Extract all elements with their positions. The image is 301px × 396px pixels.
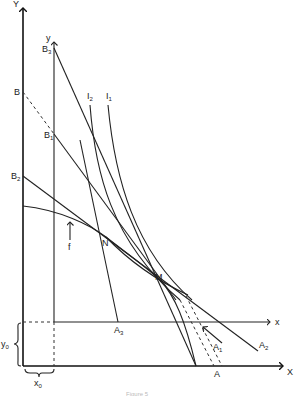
indifference-curve-i2 [90,105,180,300]
label-i1: I1 [106,91,113,102]
label-b2: B2 [11,171,21,182]
label-i2: I2 [87,91,94,102]
line-b3-a [54,48,196,366]
label-m: M [155,272,163,282]
label-f: f [68,242,71,252]
brace-y0 [14,323,21,366]
line-b-b1-dashed [23,92,54,134]
label-b: B [14,87,20,97]
label-a3: A3 [114,325,124,336]
label-a2: A2 [259,340,269,351]
label-y0: y0 [1,339,10,350]
production-possibility-diagram: Y X y x B B1 B2 B3 A A1 A2 A3 N M I2 I1 … [0,0,301,396]
label-a1: A1 [213,342,223,353]
brace-x0 [25,369,54,377]
line-dashed-to-a [180,300,214,366]
label-a: A [214,369,220,379]
label-x0: x0 [34,378,43,389]
outer-y-axis-label: Y [13,0,19,9]
inner-y-axis-label: y [46,33,51,43]
label-n: N [102,238,109,248]
inner-x-axis-label: x [275,317,280,327]
figure-caption: Figure 5 [126,391,149,396]
outer-x-axis-label: X [287,367,293,377]
label-b3: B3 [42,44,52,55]
